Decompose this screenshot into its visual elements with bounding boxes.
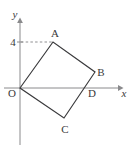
y-axis-label: y [13, 9, 18, 20]
square-OABC [20, 42, 95, 118]
origin-label: O [8, 88, 16, 99]
y-tick-label-4: 4 [10, 37, 16, 48]
x-axis-label: x [122, 88, 127, 99]
vertex-label-b: B [97, 67, 104, 78]
vertex-label-d: D [88, 88, 96, 99]
vertex-label-c: C [61, 124, 68, 135]
geometry-figure: y x 4 O A B C D [0, 0, 131, 153]
vertex-label-a: A [51, 28, 59, 39]
y-axis-arrowhead [17, 18, 23, 24]
